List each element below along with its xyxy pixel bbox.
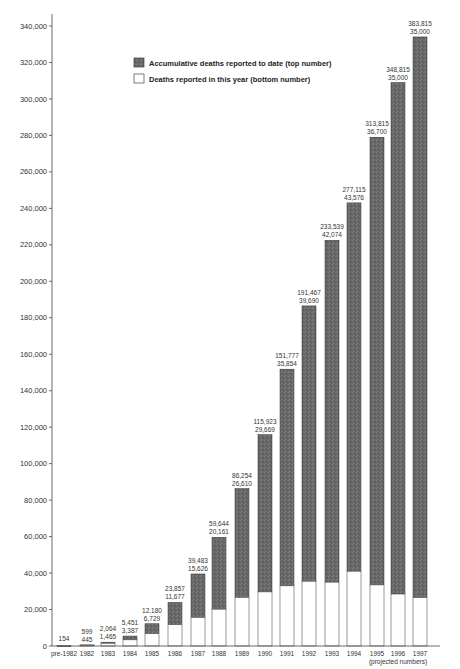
bar-label-this-year: 1,465 — [100, 633, 117, 640]
bar-group-1983: 2,0641,465 — [100, 625, 117, 646]
bar-this-year — [235, 597, 249, 646]
y-tick-label: 240,000 — [20, 204, 47, 213]
bar-this-year — [258, 592, 272, 646]
x-tick-label: pre-1982 — [51, 650, 77, 658]
x-tick-label: 1994 — [347, 650, 362, 657]
bar-label-accumulative: 599 — [82, 628, 93, 635]
bar-accumulative — [235, 489, 249, 598]
bar-label-accumulative: 86,254 — [232, 472, 252, 479]
bar-label-this-year: 6,729 — [144, 615, 161, 622]
bar-label-this-year: 39,690 — [299, 297, 319, 304]
bar-accumulative — [325, 240, 339, 582]
bar-group-1987: 39,48315,626 — [188, 557, 208, 646]
y-tick-label: 260,000 — [20, 167, 47, 176]
x-tick-label: 1987 — [191, 650, 206, 657]
x-tick-label: 1991 — [280, 650, 295, 657]
x-tick-label: 1982 — [80, 650, 95, 657]
bar-label-accumulative: 115,923 — [253, 418, 276, 425]
bar-chart: 020,00040,00060,00080,000100,000120,0001… — [0, 0, 460, 669]
y-tick-label: 20,000 — [24, 605, 47, 614]
bar-accumulative — [347, 203, 361, 571]
bar-accumulative — [413, 37, 427, 598]
x-axis: pre-198219821983198419851986198719881989… — [51, 646, 440, 666]
bar-label-this-year: 35,000 — [388, 74, 408, 81]
x-tick-label: 1990 — [258, 650, 273, 657]
legend-swatch-this-year — [134, 74, 144, 83]
y-tick-label: 280,000 — [20, 131, 47, 140]
bar-label-this-year: 43,576 — [344, 194, 364, 201]
bar-accumulative — [391, 83, 405, 595]
bar-label-this-year: 36,700 — [367, 128, 387, 135]
y-tick-label: 160,000 — [20, 350, 47, 359]
bar-this-year — [370, 585, 384, 646]
bar-this-year — [212, 609, 226, 646]
bar-label-this-year: 29,669 — [255, 426, 275, 433]
bar-this-year — [302, 581, 316, 646]
x-tick-label: 1983 — [101, 650, 116, 657]
bar-label-accumulative: 2,064 — [100, 625, 117, 632]
bar-accumulative — [145, 624, 159, 634]
bar-accumulative — [168, 602, 182, 624]
bar-group-1991: 151,77735,854 — [275, 352, 299, 646]
bar-accumulative — [280, 369, 294, 586]
x-tick-label: 1995 — [370, 650, 385, 657]
bar-label-this-year: 42,074 — [322, 231, 342, 238]
bars: 1545994452,0641,4655,4513,38712,1806,729… — [57, 20, 432, 647]
bar-label-accumulative: 151,777 — [275, 352, 299, 359]
bar-label-accumulative: 5,451 — [122, 619, 139, 626]
x-tick-label: 1997 — [413, 650, 428, 657]
bar-group-pre-1982: 154 — [57, 635, 71, 647]
bar-this-year — [347, 571, 361, 646]
bar-label-this-year: 35,854 — [277, 360, 297, 367]
bar-group-1985: 12,1806,729 — [142, 607, 162, 646]
y-tick-label: 120,000 — [20, 423, 47, 432]
y-tick-label: 300,000 — [20, 95, 47, 104]
bar-accumulative — [258, 435, 272, 592]
x-tick-label: 1996 — [391, 650, 406, 657]
bar-label-accumulative: 39,483 — [188, 557, 208, 564]
bar-label-this-year: 3,387 — [122, 627, 139, 634]
bar-this-year — [123, 640, 137, 646]
y-tick-label: 180,000 — [20, 313, 47, 322]
bar-group-1988: 59,64420,161 — [209, 520, 229, 646]
bar-this-year — [391, 594, 405, 646]
legend-label: Accumulative deaths reported to date (to… — [149, 59, 332, 68]
bar-accumulative — [123, 636, 137, 640]
bar-this-year — [191, 618, 205, 646]
bar-group-1993: 233,53942,074 — [320, 223, 344, 646]
y-tick-label: 320,000 — [20, 58, 47, 67]
bar-accumulative — [212, 537, 226, 609]
bar-group-1996: 348,81535,000 — [386, 66, 410, 646]
bar-label-accumulative: 277,115 — [342, 186, 365, 193]
bar-group-1984: 5,4513,387 — [122, 619, 139, 646]
bar-group-1997: 383,81535,000 — [408, 20, 432, 646]
bar-label-this-year: 11,677 — [165, 593, 185, 600]
bar-group-1986: 23,85711,677 — [165, 585, 185, 646]
y-tick-label: 220,000 — [20, 240, 47, 249]
bar-this-year — [280, 586, 294, 646]
bar-label-accumulative: 233,539 — [320, 223, 344, 230]
bar-label-accumulative: 348,815 — [386, 66, 410, 73]
bar-group-1982: 599445 — [80, 628, 94, 646]
y-tick-label: 0 — [43, 642, 47, 651]
x-tick-label: 1986 — [168, 650, 183, 657]
bar-label-accumulative: 313,815 — [365, 120, 389, 127]
x-tick-label: 1993 — [325, 650, 340, 657]
bar-label-this-year: 445 — [82, 636, 93, 643]
y-tick-label: 140,000 — [20, 386, 47, 395]
bar-group-1995: 313,81536,700 — [365, 120, 389, 646]
bar-group-1992: 191,46739,690 — [297, 289, 321, 646]
bar-accumulative — [370, 137, 384, 585]
bar-group-1989: 86,25426,610 — [232, 472, 252, 646]
projected-note: (projected numbers) — [369, 658, 427, 666]
bar-group-1990: 115,92329,669 — [253, 418, 276, 646]
legend-swatch-accumulative — [134, 58, 144, 67]
bar-accumulative — [302, 306, 316, 581]
y-tick-label: 40,000 — [24, 569, 47, 578]
bar-accumulative — [191, 574, 205, 618]
bar-label-accumulative: 59,644 — [209, 520, 229, 527]
bar-this-year — [145, 634, 159, 646]
y-axis: 020,00040,00060,00080,000100,000120,0001… — [20, 14, 52, 651]
bar-this-year — [413, 598, 427, 646]
bar-label-accumulative: 23,857 — [165, 585, 185, 592]
